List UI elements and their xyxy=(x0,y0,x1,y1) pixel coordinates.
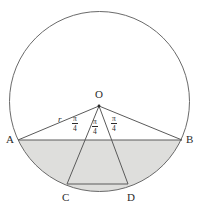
vertex-label-a: A xyxy=(6,134,14,145)
angle-numerator: π xyxy=(111,115,117,123)
angle-denominator: 4 xyxy=(72,125,78,133)
angle-label-aoc: π 4 xyxy=(72,115,78,133)
angle-denominator: 4 xyxy=(92,128,98,136)
angle-numerator: π xyxy=(92,118,98,126)
figure-canvas xyxy=(0,0,198,209)
center-point-marker xyxy=(98,105,101,108)
radius-label: r xyxy=(58,115,62,124)
angle-label-dob: π 4 xyxy=(111,115,117,133)
shaded-segment xyxy=(10,12,190,192)
vertex-label-c: C xyxy=(62,192,69,203)
vertex-label-o: O xyxy=(95,89,103,100)
geometry-figure: O A B C D r π 4 π 4 π 4 xyxy=(0,0,198,209)
vertex-label-d: D xyxy=(127,192,135,203)
vertex-label-b: B xyxy=(186,134,193,145)
angle-label-cod: π 4 xyxy=(92,118,98,136)
angle-denominator: 4 xyxy=(111,125,117,133)
angle-numerator: π xyxy=(72,115,78,123)
